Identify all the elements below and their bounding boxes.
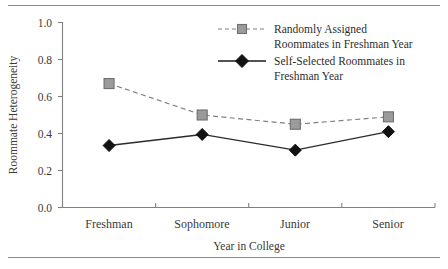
y-tick-label: 0.6: [38, 91, 53, 103]
data-point-square: [197, 110, 207, 120]
x-tick-labels: Freshman Sophomore Junior Senior: [85, 217, 403, 231]
y-tick-label: 0.2: [38, 165, 53, 177]
legend-label-self-selected-line1: Self-Selected Roommates in: [274, 55, 405, 67]
data-point-diamond: [103, 140, 115, 152]
x-tick-label: Junior: [280, 217, 310, 231]
series-layer: [103, 79, 394, 157]
y-axis-ticks: [58, 23, 63, 208]
data-point-diamond: [382, 126, 394, 138]
data-point-diamond: [289, 144, 301, 156]
series-self-selected: [103, 126, 394, 156]
line-chart: Roommate Heterogeneity 1.0 0.8 0.6 0.4 0…: [0, 0, 448, 269]
x-axis-ticks: [63, 203, 436, 208]
x-tick-label: Freshman: [85, 217, 132, 231]
y-tick-labels: 1.0 0.8 0.6 0.4 0.2 0.0: [38, 17, 53, 214]
x-axis-title: Year in College: [213, 240, 285, 253]
x-tick-label: Sophomore: [174, 217, 229, 231]
figure-container: Roommate Heterogeneity 1.0 0.8 0.6 0.4 0…: [0, 0, 448, 269]
y-tick-label: 0.8: [38, 54, 53, 66]
series-randomly-assigned: [104, 79, 393, 130]
data-point-diamond: [196, 128, 208, 140]
data-point-square: [383, 112, 393, 122]
legend: Randomly Assigned Roommates in Freshman …: [218, 23, 413, 82]
x-tick-label: Senior: [372, 217, 403, 231]
y-tick-label: 0.0: [38, 202, 53, 214]
legend-label-randomly-assigned-line1: Randomly Assigned: [274, 23, 367, 36]
legend-marker-square: [238, 25, 247, 34]
y-tick-label: 1.0: [38, 17, 53, 29]
series-line: [109, 132, 388, 151]
data-point-square: [290, 119, 300, 129]
legend-label-randomly-assigned-line2: Roommates in Freshman Year: [274, 38, 413, 50]
y-axis-title: Roommate Heterogeneity: [7, 56, 20, 175]
y-tick-label: 0.4: [38, 128, 53, 140]
legend-label-self-selected-line2: Freshman Year: [274, 70, 343, 82]
series-line: [109, 84, 388, 125]
legend-marker-diamond: [236, 55, 249, 68]
data-point-square: [104, 79, 114, 89]
